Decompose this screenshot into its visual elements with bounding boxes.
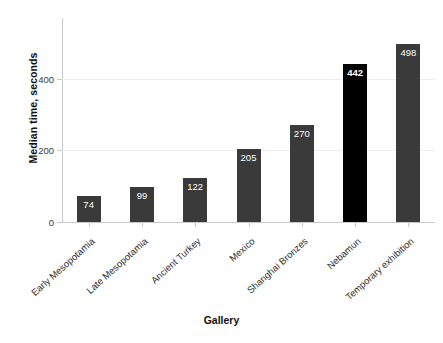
bar[interactable]: 122 bbox=[183, 178, 207, 222]
bar[interactable]: 205 bbox=[237, 149, 261, 222]
x-tick-mark bbox=[195, 222, 196, 227]
bar[interactable]: 270 bbox=[290, 125, 314, 222]
x-tick-mark bbox=[249, 222, 250, 227]
y-tick-label: 400 bbox=[10, 73, 54, 84]
x-tick-mark bbox=[302, 222, 303, 227]
bar[interactable]: 498 bbox=[396, 44, 420, 222]
y-tick-label: 200 bbox=[10, 145, 54, 156]
bar[interactable]: 99 bbox=[130, 187, 154, 222]
bar[interactable]: 442 bbox=[343, 64, 367, 222]
bar-chart-figure: Median time, seconds 0200400 74991222052… bbox=[0, 0, 443, 343]
plot-area: 7499122205270442498 bbox=[62, 18, 435, 222]
bar-value-label: 270 bbox=[290, 128, 314, 139]
x-tick-mark bbox=[89, 222, 90, 227]
bar-value-label: 99 bbox=[130, 190, 154, 201]
y-tick-label: 0 bbox=[10, 217, 54, 228]
y-tick-mark bbox=[57, 222, 62, 223]
bar-value-label: 205 bbox=[237, 152, 261, 163]
bar-value-label: 74 bbox=[77, 199, 101, 210]
bar-value-label: 122 bbox=[183, 181, 207, 192]
y-axis-title: Median time, seconds bbox=[27, 13, 39, 203]
bar-value-label: 498 bbox=[396, 47, 420, 58]
x-tick-mark bbox=[408, 222, 409, 227]
x-tick-mark bbox=[355, 222, 356, 227]
x-axis-title: Gallery bbox=[0, 314, 443, 326]
bar-value-label: 442 bbox=[343, 67, 367, 78]
bar[interactable]: 74 bbox=[77, 196, 101, 222]
x-tick-mark bbox=[142, 222, 143, 227]
